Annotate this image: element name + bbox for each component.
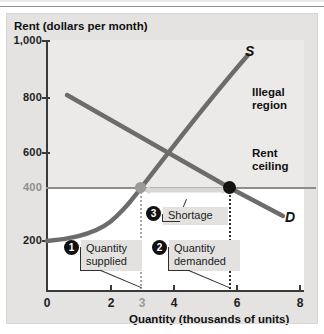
quantity-supplied-droplineice bbox=[140, 189, 142, 289]
quantity-supplied-callout-stem bbox=[80, 247, 81, 271]
shortage-callout-underline bbox=[162, 221, 180, 222]
illegal-region-label-line1: Illegal bbox=[252, 86, 287, 99]
quantity-supplied-callout-underline bbox=[80, 270, 102, 271]
demand-curve-label: D bbox=[285, 209, 295, 225]
rent-ceiling-label: Rent ceiling bbox=[252, 147, 288, 173]
demand-curve bbox=[67, 95, 283, 216]
illegal-region-label-line2: region bbox=[252, 99, 287, 112]
callout-badge-1: 1 bbox=[64, 240, 79, 255]
quantity-demanded-callout-stem bbox=[168, 247, 169, 271]
shortage-callout-stem bbox=[162, 214, 163, 222]
quantity-demanded-callout-underline bbox=[168, 270, 190, 271]
illegal-region-label: Illegal region bbox=[252, 86, 287, 112]
supply-curve-label: S bbox=[245, 43, 254, 59]
quantity-demanded-point bbox=[223, 181, 236, 194]
rent-ceiling-label-line1: Rent bbox=[252, 147, 288, 160]
shortage-arrow-icon bbox=[142, 186, 230, 194]
quantity-demanded-callout: Quantity demanded bbox=[169, 240, 240, 271]
rent-ceiling-label-line2: ceiling bbox=[252, 160, 288, 173]
quantity-supplied-callout: Quantity supplied bbox=[81, 240, 142, 271]
quantity-supplied-point bbox=[135, 182, 146, 193]
callout-badge-3: 3 bbox=[146, 206, 161, 221]
callout-badge-2: 2 bbox=[152, 240, 167, 255]
rent-ceiling-chart-figure: Rent (dollars per month) Quantity (thous… bbox=[0, 0, 324, 334]
